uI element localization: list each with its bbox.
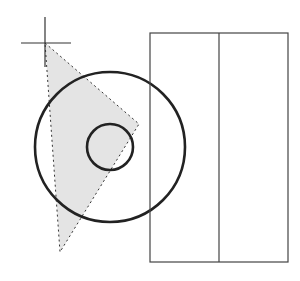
diagram-canvas: [0, 0, 300, 281]
